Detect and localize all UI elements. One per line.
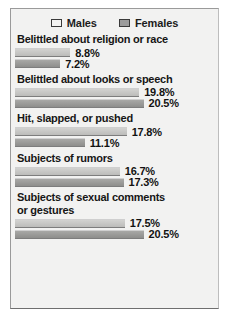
table-row: 17.8% [15, 127, 214, 137]
bar-value-females: 20.5% [149, 228, 179, 240]
chart-legend: Males Females [11, 9, 218, 33]
category-label: Subjects of rumors [15, 152, 214, 165]
table-row: 20.5% [15, 229, 214, 239]
bar-females [15, 59, 60, 68]
category-label: Hit, slapped, or pushed [15, 112, 214, 125]
chart-plot-area: Belittled about religion or race 8.8% 7.… [11, 33, 218, 239]
table-row: 20.5% [15, 98, 214, 108]
bar-group: Subjects of rumors 16.7% 17.3% [11, 152, 218, 188]
table-row: 19.8% [15, 87, 214, 97]
bar-males [15, 88, 139, 97]
bar-males [15, 219, 125, 228]
category-label: Subjects of sexual comments or gestures [15, 191, 214, 216]
females-swatch-icon [119, 19, 130, 27]
males-swatch-icon [51, 19, 62, 27]
bar-females [15, 138, 85, 147]
legend-entry-females: Females [119, 17, 178, 29]
legend-entry-males: Males [51, 17, 97, 29]
bar-females [15, 230, 144, 239]
bar-chart-frame: Males Females Belittled about religion o… [10, 8, 219, 309]
table-row: 11.1% [15, 138, 214, 148]
bar-value-females: 7.2% [65, 58, 89, 70]
bar-males [15, 48, 70, 57]
table-row: 7.2% [15, 59, 214, 69]
bar-value-females: 20.5% [149, 97, 179, 109]
bar-females [15, 99, 144, 108]
bar-group: Hit, slapped, or pushed 17.8% 11.1% [11, 112, 218, 148]
bar-males [15, 127, 127, 136]
bar-females [15, 178, 124, 187]
table-row: 17.3% [15, 177, 214, 187]
bar-value-females: 11.1% [90, 137, 120, 149]
category-label: Belittled about religion or race [15, 33, 214, 46]
bar-value-males: 17.8% [132, 126, 162, 138]
table-row: 16.7% [15, 166, 214, 176]
bar-value-females: 17.3% [129, 176, 159, 188]
bar-males [15, 167, 120, 176]
bar-group: Subjects of sexual comments or gestures … [11, 191, 218, 239]
table-row: 8.8% [15, 48, 214, 58]
category-label: Belittled about looks or speech [15, 73, 214, 86]
legend-label-females: Females [135, 17, 178, 29]
bar-group: Belittled about religion or race 8.8% 7.… [11, 33, 218, 69]
bar-group: Belittled about looks or speech 19.8% 20… [11, 73, 218, 109]
table-row: 17.5% [15, 218, 214, 228]
legend-label-males: Males [67, 17, 97, 29]
